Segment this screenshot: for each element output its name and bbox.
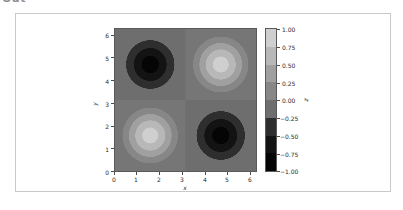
- x-tick-mark: [227, 172, 228, 175]
- x-tick-mark: [159, 172, 160, 175]
- y-axis-title: y: [91, 102, 98, 106]
- x-tick-label: 2: [157, 176, 161, 183]
- colorbar-tick-label: 0.50: [282, 62, 295, 69]
- colorbar-tick-label: −1.00: [280, 168, 298, 175]
- colorbar-band: [266, 136, 276, 154]
- colorbar-tick-label: 0.00: [282, 97, 295, 104]
- colorbar-band: [266, 118, 276, 136]
- notebook-output-card: 0 1 2 3 4 5 6 x 0 1 2 3 4 5 6 y: [15, 13, 391, 192]
- y-tick-mark: [111, 148, 114, 149]
- y-tick-mark: [111, 103, 114, 104]
- x-tick-label: 0: [112, 176, 116, 183]
- x-tick-label: 3: [180, 176, 184, 183]
- y-tick-label: 4: [102, 78, 109, 85]
- y-tick-mark: [111, 126, 114, 127]
- colorbar-title: z: [302, 98, 309, 101]
- colorbar-tick-label: −0.75: [280, 151, 298, 158]
- colorbar-band: [266, 82, 276, 100]
- colorbar-band: [266, 29, 276, 47]
- y-tick-mark: [111, 171, 114, 172]
- colorbar-band: [266, 153, 276, 171]
- contour-field: [115, 29, 256, 171]
- colorbar-tick-mark: [277, 100, 280, 101]
- x-tick-label: 1: [134, 176, 138, 183]
- colorbar-band: [266, 100, 276, 118]
- colorbar-tick-mark: [277, 65, 280, 66]
- matplotlib-figure: 0 1 2 3 4 5 6 x 0 1 2 3 4 5 6 y: [16, 14, 390, 191]
- colorbar: [265, 28, 277, 172]
- y-tick-label: 6: [102, 32, 109, 39]
- colorbar-tick-label: 0.75: [282, 44, 295, 51]
- y-tick-mark: [111, 35, 114, 36]
- colorbar-tick-label: 1.00: [282, 26, 295, 33]
- y-tick-label: 3: [102, 101, 109, 108]
- x-tick-mark: [136, 172, 137, 175]
- colorbar-tick-label: −0.50: [280, 133, 298, 140]
- colorbar-band: [266, 47, 276, 65]
- y-tick-mark: [111, 80, 114, 81]
- contour-plot-axes: [114, 28, 257, 172]
- y-tick-mark: [111, 57, 114, 58]
- colorbar-tick-mark: [277, 29, 280, 30]
- colorbar-tick-mark: [277, 83, 280, 84]
- y-tick-label: 2: [102, 123, 109, 130]
- colorbar-tick-label: −0.25: [280, 115, 298, 122]
- screenshot-root: Out: [0, 0, 403, 210]
- colorbar-band: [266, 65, 276, 83]
- x-tick-mark: [205, 172, 206, 175]
- jupyter-out-prompt: Out: [2, 0, 26, 5]
- x-axis-title: x: [183, 184, 187, 191]
- colorbar-tick-label: 0.25: [282, 80, 295, 87]
- x-tick-label: 4: [203, 176, 207, 183]
- x-tick-label: 5: [225, 176, 229, 183]
- y-tick-label: 1: [102, 146, 109, 153]
- x-tick-label: 6: [248, 176, 252, 183]
- colorbar-tick-mark: [277, 47, 280, 48]
- y-tick-label: 0: [102, 169, 109, 176]
- x-tick-mark: [250, 172, 251, 175]
- y-tick-label: 5: [102, 55, 109, 62]
- x-tick-mark: [114, 172, 115, 175]
- x-tick-mark: [182, 172, 183, 175]
